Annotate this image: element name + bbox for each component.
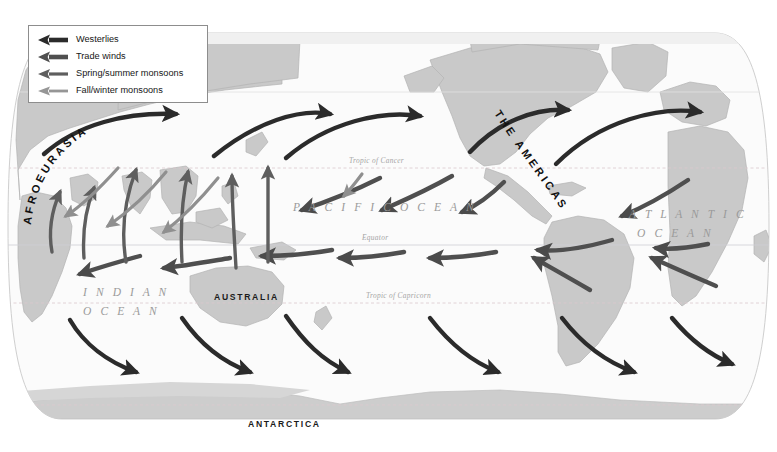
trade-winds-arrow-icon (37, 50, 69, 64)
legend-box: Westerlies Trade winds Spring/summer mon… (28, 25, 208, 103)
legend-item-trade-winds: Trade winds (29, 48, 207, 65)
spring-summer-monsoons-arrow-icon (37, 67, 69, 81)
world-wind-map-figure: AFROEURASIA THE AMERICAS P A C I F I C O… (0, 0, 777, 452)
legend-item-fall-winter-monsoons: Fall/winter monsoons (29, 82, 207, 99)
legend-label-fall-winter-monsoons: Fall/winter monsoons (76, 86, 163, 95)
westerlies-arrow-icon (37, 33, 69, 47)
legend-label-westerlies: Westerlies (76, 35, 119, 44)
legend-item-westerlies: Westerlies (29, 31, 207, 48)
legend-label-trade-winds: Trade winds (76, 52, 126, 61)
fall-winter-monsoons-arrow-icon (37, 84, 69, 98)
legend-label-spring-summer-monsoons: Spring/summer monsoons (76, 69, 183, 78)
legend-item-spring-summer-monsoons: Spring/summer monsoons (29, 65, 207, 82)
